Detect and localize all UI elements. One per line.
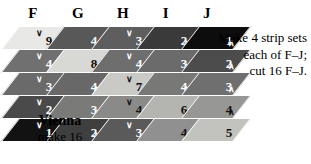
cell-number: 5 [225, 126, 232, 140]
instruction-annotation: Make 4 strip sets each of F–J; cut 16 F–… [185, 30, 307, 80]
cell-number: 4 [225, 103, 232, 117]
annotation-line-1: Make 4 strip sets [185, 30, 307, 47]
annotation-line-2: each of F–J; [185, 47, 307, 64]
block-name: Vienna [18, 112, 102, 129]
cell-j-4: ∧4 [181, 95, 252, 119]
column-header-g: G [67, 5, 89, 21]
column-header-i: I [155, 5, 177, 21]
orientation-down-icon: ∨ [126, 121, 133, 130]
strip-set-diagram: FGHIJ ∨9∨4∨3∨2∨14∧8∧4∧3∧2∨3∨4∨7∨4∨3∧2∧3∧… [0, 0, 311, 164]
orientation-down-icon: ∨ [36, 52, 43, 61]
orientation-down-icon: ∨ [126, 29, 133, 38]
orientation-down-icon: ∨ [36, 29, 43, 38]
orientation-down-icon: ∨ [126, 75, 133, 84]
block-make-count: make 16 [18, 129, 102, 145]
cell-j-5: 5 [181, 118, 252, 142]
orientation-down-icon: ∨ [126, 52, 133, 61]
orientation-down-icon: ∨ [36, 75, 43, 84]
column-header-j: J [196, 5, 218, 21]
block-name-label: Vienna make 16 [18, 112, 102, 145]
column-header-h: H [112, 5, 134, 21]
cell-number: 3 [225, 80, 232, 94]
orientation-down-icon: ∨ [36, 98, 43, 107]
annotation-line-3: cut 16 F–J. [185, 63, 307, 80]
column-header-f: F [22, 5, 44, 21]
orientation-down-icon: ∨ [126, 98, 133, 107]
